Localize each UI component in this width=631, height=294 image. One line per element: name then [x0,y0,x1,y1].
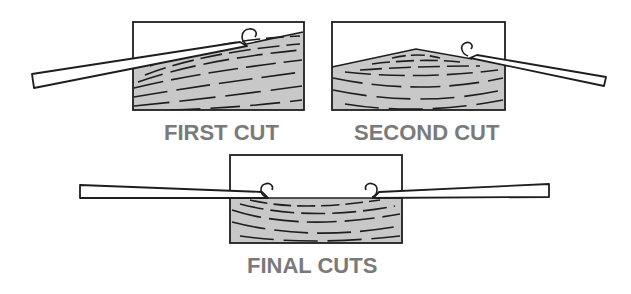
final-cuts-label: FINAL CUTS [247,255,377,277]
second-cut-panel [332,22,606,110]
final-cuts-panel [80,155,549,243]
wood-block [332,22,505,110]
wood-block [133,22,304,110]
first-cut-panel [32,22,304,110]
second-cut-label: SECOND CUT [354,122,499,144]
wood-block [230,155,402,243]
diagram-canvas [0,0,631,294]
first-cut-label: FIRST CUT [164,122,279,144]
